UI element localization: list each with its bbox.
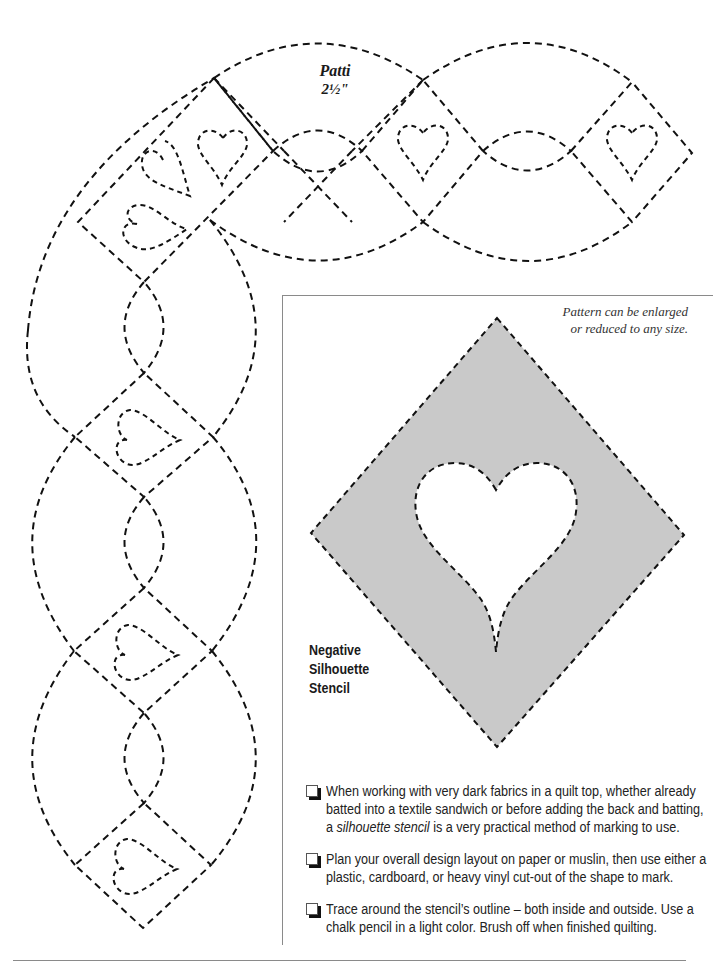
resize-note-line-1: Pattern can be enlarged xyxy=(540,303,688,320)
stencil-label-line-1: Negative xyxy=(309,641,369,660)
resize-note-line-2: or reduced to any size. xyxy=(540,320,688,337)
instruction-text: When working with very dark fabrics in a… xyxy=(326,782,713,836)
instruction-list: When working with very dark fabrics in a… xyxy=(304,782,713,950)
instruction-item: Trace around the stencil’s outline – bot… xyxy=(304,900,713,936)
pattern-title: Patti xyxy=(290,62,380,80)
pattern-size: 2½" xyxy=(290,80,380,98)
checkbox-icon[interactable] xyxy=(306,785,318,797)
checkbox-icon[interactable] xyxy=(306,903,318,915)
resize-note: Pattern can be enlarged or reduced to an… xyxy=(540,303,688,337)
instruction-text: Plan your overall design layout on paper… xyxy=(326,850,713,886)
instruction-item: When working with very dark fabrics in a… xyxy=(304,782,713,836)
stencil-label-line-3: Stencil xyxy=(309,679,369,698)
checkbox-icon[interactable] xyxy=(306,853,318,865)
stencil-label-line-2: Silhouette xyxy=(309,660,369,679)
stencil-label: Negative Silhouette Stencil xyxy=(309,641,369,698)
instruction-text: Trace around the stencil’s outline – bot… xyxy=(326,900,713,936)
instruction-item: Plan your overall design layout on paper… xyxy=(304,850,713,886)
